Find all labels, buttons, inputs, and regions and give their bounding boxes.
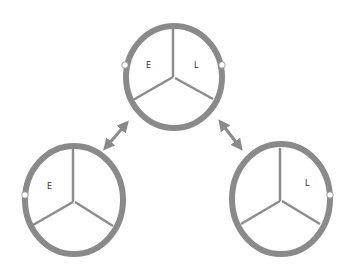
wheel-diagram: E L E L	[0, 0, 352, 274]
bottom-left-wheel-marker-left	[22, 192, 28, 198]
top-wheel-spoke-right	[175, 78, 213, 99]
top-wheel-label-l: L	[194, 61, 199, 70]
bottom-left-wheel-spoke-left	[33, 202, 73, 225]
bottom-left-wheel-spoke-right	[75, 202, 113, 226]
top-wheel-marker-left	[122, 62, 128, 68]
top-wheel-marker-right	[219, 62, 225, 68]
double-arrow-left-icon	[107, 125, 125, 146]
double-arrow-right-icon	[222, 124, 239, 146]
bottom-right-wheel-spoke-left	[241, 201, 280, 224]
bottom-right-wheel-spoke-right	[282, 201, 320, 224]
top-wheel-label-e: E	[146, 61, 151, 70]
top-wheel: E L	[122, 25, 225, 128]
top-wheel-spoke-left	[133, 77, 173, 100]
bottom-right-wheel: L	[232, 144, 333, 254]
bottom-left-wheel: E	[22, 146, 123, 254]
bottom-right-wheel-marker-right	[327, 192, 333, 198]
bottom-right-wheel-label-l: L	[305, 179, 310, 188]
bottom-left-wheel-label-e: E	[47, 182, 52, 191]
